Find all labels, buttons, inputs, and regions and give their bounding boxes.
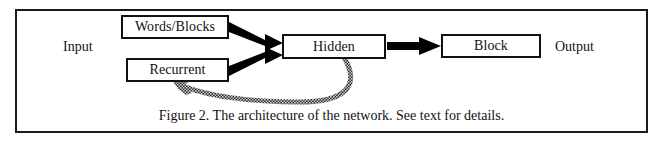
node-hidden-label: Hidden — [313, 39, 355, 55]
arrow-hidden-to-block — [387, 37, 441, 55]
node-block-label: Block — [474, 38, 508, 54]
arrow-words-to-hidden — [229, 22, 283, 51]
node-block[interactable]: Block — [441, 34, 541, 58]
label-input: Input — [63, 39, 93, 55]
node-words-blocks[interactable]: Words/Blocks — [121, 15, 229, 39]
node-recurrent[interactable]: Recurrent — [126, 58, 229, 82]
figure-caption: Figure 2. The architecture of the networ… — [15, 108, 648, 124]
label-output: Output — [555, 39, 594, 55]
node-words-blocks-label: Words/Blocks — [135, 19, 215, 35]
figure-page: Words/Blocks Recurrent Hidden Block Inpu… — [0, 0, 666, 143]
node-recurrent-label: Recurrent — [149, 62, 205, 78]
node-hidden[interactable]: Hidden — [282, 34, 386, 59]
arrow-recurrent-to-hidden — [229, 47, 283, 76]
